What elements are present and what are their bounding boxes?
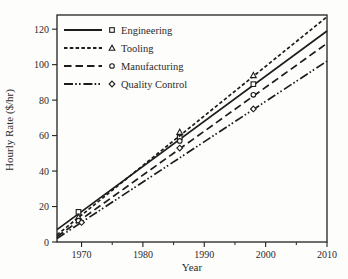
legend-label-engineering: Engineering [121,25,173,36]
x-tick-label: 1980 [133,249,153,260]
fit-line-manufacturing [57,43,327,236]
fit-line-engineering [57,31,327,230]
y-tick-label: 0 [44,237,49,248]
data-point-tooling [251,72,257,77]
data-point-engineering [251,82,256,87]
data-point-quality-control [251,106,257,112]
y-tick-label: 120 [34,24,49,35]
data-point-manufacturing [177,139,182,144]
x-tick-label: 1990 [194,249,214,260]
square-icon [110,28,115,33]
data-point-tooling [177,129,183,134]
x-axis-title: Year [182,261,203,273]
x-tick-label: 2010 [317,249,337,260]
legend-label-tooling: Tooling [121,43,154,54]
fit-line-tooling [57,17,327,235]
x-tick-label: 2000 [256,249,276,260]
data-point-quality-control [177,145,183,151]
y-tick-label: 80 [39,95,49,106]
legend-label-manufacturing: Manufacturing [121,61,184,72]
x-tick-label: 1970 [72,249,92,260]
circle-icon [110,64,115,69]
y-axis-title: Hourly Rate ($/hr) [3,89,16,171]
y-tick-label: 60 [39,130,49,141]
triangle-icon [109,45,115,50]
diamond-icon [109,81,115,87]
fit-line-quality-control [57,61,327,238]
y-tick-label: 20 [39,201,49,212]
data-point-manufacturing [251,93,256,98]
y-tick-label: 100 [34,59,49,70]
y-tick-label: 40 [39,166,49,177]
legend-label-quality-control: Quality Control [121,79,187,90]
rate-chart-figure: 19701980199020002010020406080100120Engin… [0,0,348,279]
chart-canvas: 19701980199020002010020406080100120Engin… [0,0,348,279]
